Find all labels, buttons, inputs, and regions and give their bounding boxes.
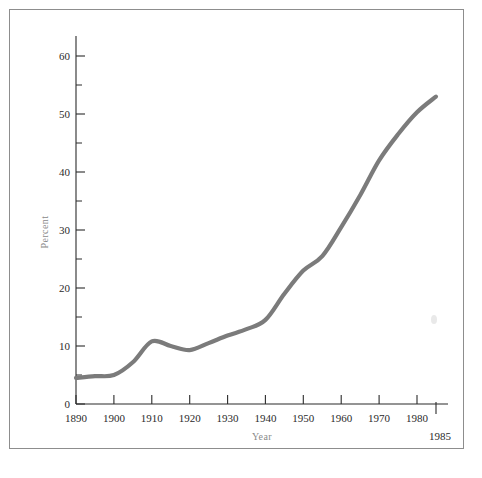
figure-container: 0 10 20 30 40 50 60 Percent 1890 xyxy=(0,0,482,478)
x-tick-label: 1970 xyxy=(368,412,391,424)
y-tick-label: 0 xyxy=(65,398,71,410)
x-tick-label: 1900 xyxy=(103,412,126,424)
x-tick-label: 1930 xyxy=(217,412,240,424)
x-tick-label: 1910 xyxy=(141,412,164,424)
y-tick-label: 60 xyxy=(59,50,71,62)
x-tick-label: 1890 xyxy=(65,412,88,424)
x-tick-label-1985: 1985 xyxy=(429,430,452,442)
x-tick-label: 1920 xyxy=(179,412,202,424)
line-chart: 0 10 20 30 40 50 60 Percent 1890 xyxy=(0,0,482,478)
y-tick-label: 30 xyxy=(59,224,71,236)
x-tick-label: 1960 xyxy=(330,412,353,424)
x-axis-title: Year xyxy=(252,431,272,442)
y-tick-label: 20 xyxy=(59,282,71,294)
x-tick-label: 1940 xyxy=(254,412,277,424)
y-axis-title: Percent xyxy=(39,216,50,249)
y-major-ticks xyxy=(76,56,85,404)
x-tick-label: 1980 xyxy=(406,412,429,424)
x-tick-label: 1950 xyxy=(292,412,315,424)
y-tick-label: 50 xyxy=(59,108,71,120)
y-tick-labels: 0 10 20 30 40 50 60 xyxy=(59,50,71,410)
y-tick-label: 10 xyxy=(59,340,71,352)
series-line-percent xyxy=(76,97,436,378)
y-tick-label: 40 xyxy=(59,166,71,178)
